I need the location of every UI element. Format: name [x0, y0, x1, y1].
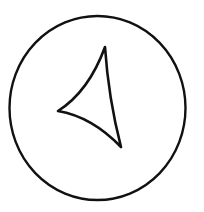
left-pointing-arrow-icon	[58, 47, 121, 147]
compass-figure	[0, 0, 204, 212]
compass-diagram	[0, 0, 204, 212]
outer-circle	[10, 16, 186, 200]
